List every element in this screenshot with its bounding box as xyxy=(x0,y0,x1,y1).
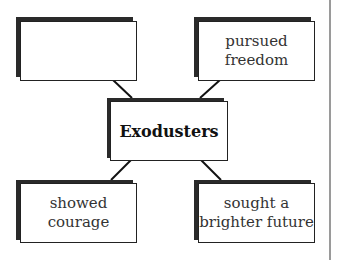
node-center: Exodusters xyxy=(110,101,228,161)
node-top-left xyxy=(20,21,137,81)
node-label: showed courage xyxy=(48,194,110,232)
connector-top-right xyxy=(200,80,220,98)
connector-bottom-left xyxy=(111,160,131,180)
node-bottom-right: sought a brighter future xyxy=(198,183,315,243)
node-label: sought a brighter future xyxy=(199,194,314,232)
connector-bottom-right xyxy=(201,160,221,180)
node-bottom-left: showed courage xyxy=(20,183,137,243)
node-top-right: pursued freedom xyxy=(198,21,315,81)
center-label: Exodusters xyxy=(119,122,218,141)
connector-top-left xyxy=(113,80,132,98)
node-label: pursued freedom xyxy=(225,32,288,70)
